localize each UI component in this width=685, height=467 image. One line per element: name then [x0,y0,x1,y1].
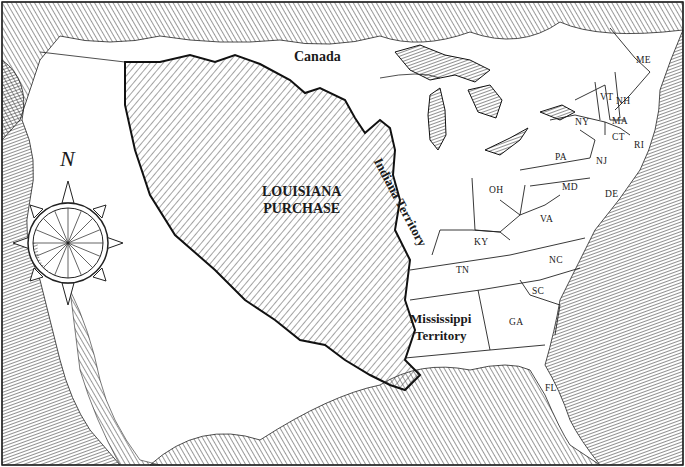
label-nc: NC [549,256,563,266]
label-tn: TN [456,266,469,276]
label-ky: KY [474,238,488,248]
label-va: VA [540,215,553,225]
label-fl: FL [545,384,557,394]
label-de: DE [605,190,618,200]
map-artwork [0,0,685,467]
label-mississippi-line2: Territory [410,327,471,344]
label-louisiana-line1: LOUISIANA [262,183,341,200]
label-sc: SC [532,287,544,297]
label-ny: NY [575,118,589,128]
label-nh: NH [616,97,630,107]
label-louisiana-line2: PURCHASE [262,200,341,217]
label-ct: CT [612,133,625,143]
label-oh: OH [489,186,503,196]
label-me: ME [636,56,651,66]
label-canada: Canada [294,50,341,64]
label-vt: VT [600,93,613,103]
label-md: MD [562,183,578,193]
label-louisiana-purchase: LOUISIANA PURCHASE [262,183,341,217]
label-mississippi-line1: Mississippi [410,310,471,327]
compass-north-label: N [60,148,75,170]
label-ma: MA [612,117,628,127]
label-pa: PA [555,153,567,163]
label-nj: NJ [596,157,607,167]
label-ri: RI [634,141,644,151]
label-ga: GA [509,318,523,328]
label-mississippi-territory: Mississippi Territory [410,310,471,344]
map: N Canada LOUISIANA PURCHASE Indiana Terr… [0,0,685,467]
